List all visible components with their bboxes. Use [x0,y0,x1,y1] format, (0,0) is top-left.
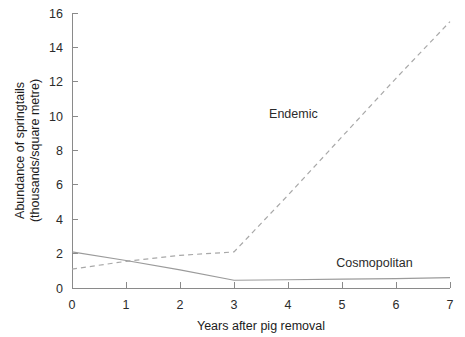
y-tick-label-0: 0 [56,282,63,296]
y-axis-title-line1: Abundance of springtails [13,82,27,219]
x-tick-label-0: 0 [69,298,76,312]
axes [72,13,450,288]
series-annotations: EndemicCosmopolitan [269,107,413,270]
x-tick-label-5: 5 [339,298,346,312]
series-line-endemic [72,22,450,270]
x-axis-title: Years after pig removal [197,319,325,333]
axis-spines [72,13,450,288]
x-tick-label-3: 3 [231,298,238,312]
x-tick-label-1: 1 [123,298,130,312]
series-label-cosmopolitan: Cosmopolitan [336,256,412,270]
x-tick-label-2: 2 [177,298,184,312]
data-series [72,22,450,281]
x-tick-label-7: 7 [447,298,454,312]
y-tick-label-16: 16 [49,7,63,21]
y-tick-label-6: 6 [56,178,63,192]
y-tick-label-10: 10 [49,110,63,124]
y-tick-label-14: 14 [49,41,63,55]
x-tick-label-6: 6 [393,298,400,312]
y-tick-label-4: 4 [56,213,63,227]
y-tick-label-8: 8 [56,144,63,158]
y-axis-title-line2: (thousands/square metre) [28,79,42,222]
y-tick-label-2: 2 [56,247,63,261]
series-label-endemic: Endemic [269,107,318,121]
y-tick-label-12: 12 [49,75,63,89]
line-chart-plot: 024681012141601234567 EndemicCosmopolita… [0,0,465,337]
chart-figure: 024681012141601234567 EndemicCosmopolita… [0,0,465,337]
tick-marks [72,13,450,288]
x-tick-label-4: 4 [285,298,292,312]
